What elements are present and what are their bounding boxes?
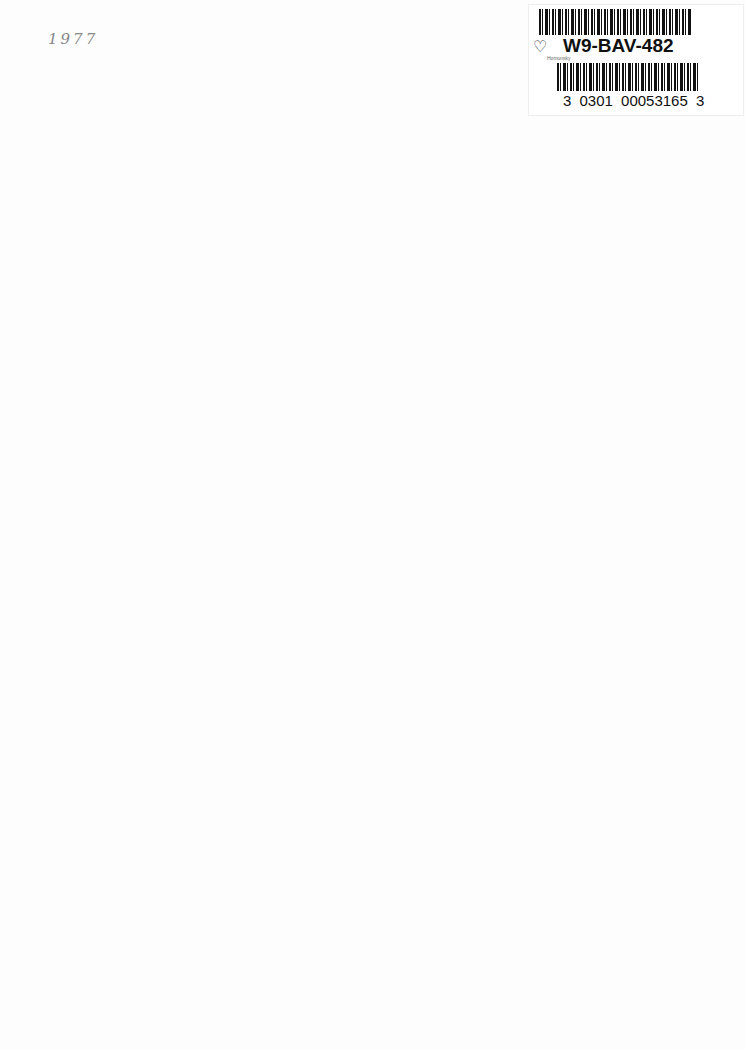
barcode-top [539,9,691,35]
call-id: W9-BAV-482 [563,35,674,57]
barcode-number: 3 0301 00053165 3 [563,92,704,109]
heart-icon: ♡ [533,37,547,56]
handwritten-year: 1977 [48,30,98,48]
label-small-text: Homunsky [547,55,571,61]
barcode-bottom [557,63,699,91]
library-barcode-label: ♡ W9-BAV-482 Homunsky 3 0301 00053165 3 [528,4,744,116]
